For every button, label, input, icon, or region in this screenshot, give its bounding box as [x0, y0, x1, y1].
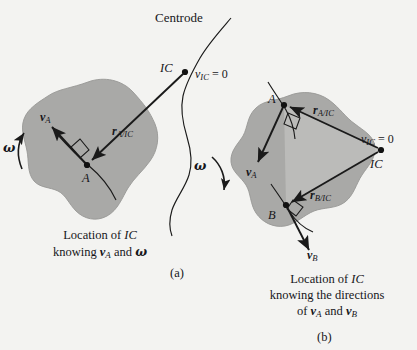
panel-a-raic-sub: A/IC — [117, 129, 133, 139]
panel-b-velocity-a-label: vA — [246, 165, 257, 180]
panel-b-caption-v2sub: B — [351, 308, 357, 318]
panel-a-caption-pre: knowing — [53, 245, 100, 259]
panel-b-vic-sub: IC — [366, 137, 375, 147]
panel-b-point-a-dot — [281, 102, 287, 108]
panel-b-omega-label: ω — [194, 158, 206, 173]
panel-b-caption-line2: knowing the directions — [237, 288, 417, 304]
panel-b-caption-line3: of vA and vB — [237, 304, 417, 320]
panel-a-point-ic-dot — [182, 69, 188, 75]
panel-a-velocity-a-label: vA — [40, 110, 51, 125]
panel-b-caption-mid: and — [322, 304, 346, 318]
panel-a-caption-line2: knowing vA and ω — [20, 244, 180, 261]
panel-b-body — [231, 93, 381, 227]
centrode-label: Centrode — [155, 10, 203, 25]
panel-b-ic-label: IC — [370, 157, 383, 172]
panel-b-velocity-b-label: vB — [307, 248, 318, 263]
panel-b-caption-ic: IC — [351, 272, 364, 286]
panel-a-tag: (a) — [170, 266, 184, 281]
panel-a-vic-sub: IC — [200, 72, 209, 82]
panel-a-caption-mid: and — [111, 245, 135, 259]
panel-b-va-sub: A — [251, 170, 256, 180]
panel-b-point-a-label: A — [268, 92, 276, 107]
panel-a-ic-label: IC — [160, 61, 173, 76]
panel-a-ic-velocity-label: vIC = 0 — [195, 67, 228, 82]
panel-b-point-b-dot — [283, 202, 289, 208]
panel-a-caption-line1: Location of IC — [20, 228, 180, 244]
centrode-curve — [170, 18, 231, 236]
figure-container: Centrode IC vIC = 0 A vA rA/IC ω ω A B I… — [0, 0, 417, 350]
panel-b-omega-arrow — [212, 157, 224, 190]
panel-b-vb-sub: B — [312, 253, 317, 263]
panel-b-position-vector-a-label: rA/IC — [313, 103, 334, 118]
panel-b-raic-sub: A/IC — [318, 108, 334, 118]
panel-a-point-a-dot — [84, 162, 90, 168]
panel-a-caption: Location of IC knowing vA and ω — [20, 228, 180, 261]
panel-a-caption-omega: ω — [135, 244, 147, 259]
panel-a-va-sub: A — [45, 115, 50, 125]
panel-b-ic-velocity-label: vIC = 0 — [361, 132, 394, 147]
panel-b-caption-pre: of — [297, 304, 311, 318]
panel-b-vic-eq: = 0 — [375, 132, 394, 146]
panel-a-vic-eq: = 0 — [209, 67, 228, 81]
panel-a-body — [22, 79, 157, 219]
panel-a-omega-label: ω — [3, 140, 15, 155]
panel-a-omega-arrow — [18, 133, 24, 169]
panel-b-tag: (b) — [317, 330, 332, 345]
panel-b-rbic-sub: B/IC — [315, 193, 331, 203]
panel-a-position-vector-label: rA/IC — [112, 124, 133, 139]
panel-b-caption-line1: Location of IC — [237, 272, 417, 288]
panel-b-position-vector-b-label: rB/IC — [310, 188, 331, 203]
panel-b-point-ic-dot — [378, 147, 384, 153]
panel-b-point-b-label: B — [268, 208, 276, 223]
panel-a-point-a-label: A — [82, 171, 90, 186]
panel-b-caption: Location of IC knowing the directions of… — [237, 272, 417, 320]
panel-a-caption-ic: IC — [124, 228, 137, 242]
